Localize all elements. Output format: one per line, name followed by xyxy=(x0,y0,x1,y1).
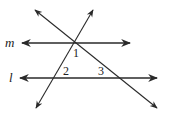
parallel-lines-diagram: m l 1 2 3 xyxy=(0,0,170,121)
angle-1-label: 1 xyxy=(73,46,79,60)
line-m-label: m xyxy=(5,35,14,50)
transversal-ascending xyxy=(36,10,93,108)
angle-3-label: 3 xyxy=(98,64,104,78)
line-l-label: l xyxy=(9,70,13,85)
angle-2-label: 2 xyxy=(63,64,69,78)
transversal-descending xyxy=(35,10,157,108)
